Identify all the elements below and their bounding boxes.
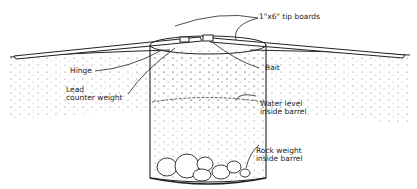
lead-label-line2: counter weight xyxy=(66,94,123,102)
rock-label-line2: inside barrel xyxy=(256,155,303,163)
hinge-block xyxy=(180,37,189,42)
bait-label: Bait xyxy=(265,64,280,72)
water-label-line2: inside barrel xyxy=(260,108,307,116)
barrel-trap-diagram: 1"x6" tip boards Hinge Bait Lead counter… xyxy=(0,0,417,189)
diagram-drawing xyxy=(0,0,417,189)
bait xyxy=(203,35,213,41)
hinge-label: Hinge xyxy=(70,67,92,75)
tip-boards-label: 1"x6" tip boards xyxy=(259,13,320,21)
